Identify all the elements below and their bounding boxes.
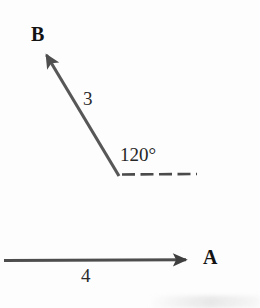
vector-diagram-figure: B A 3 4 120°: [0, 0, 260, 308]
vector-a-label: A: [203, 247, 217, 267]
horizontal-reference-dashed-line: [122, 174, 197, 175]
vector-a-magnitude-label: 4: [81, 266, 91, 285]
angle-measure-label: 120°: [120, 145, 156, 164]
scan-artifact: [150, 296, 260, 308]
vector-b-magnitude-label: 3: [83, 89, 93, 108]
vector-a-shaft: [4, 260, 186, 261]
vector-b-shaft: [47, 55, 120, 176]
vector-b-label: B: [31, 24, 44, 44]
